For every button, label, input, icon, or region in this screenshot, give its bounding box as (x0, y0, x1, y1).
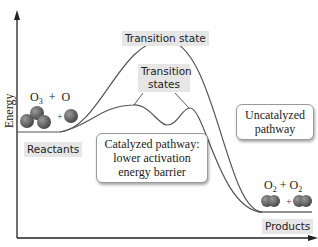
transition-state-label: Transition state (122, 31, 209, 46)
o2-molecule-icon (261, 195, 280, 207)
reactants-formula: O3 + O (30, 90, 70, 106)
plus-sign: + (286, 196, 292, 207)
products-formula: O2 + O2 (264, 178, 302, 194)
transition-states-label: Transition states (138, 64, 190, 92)
leader-line (175, 93, 189, 108)
o2-molecule-icon (293, 195, 312, 207)
leader-line (134, 93, 143, 105)
reactants-label: Reactants (24, 142, 82, 157)
ozone-molecule-icon (20, 106, 51, 129)
energy-diagram: + + Energy Transition state Transition s… (0, 0, 318, 247)
plus-sign: + (57, 111, 63, 122)
uncatalyzed-callout: Uncatalyzed pathway (236, 104, 314, 140)
catalyzed-callout: Catalyzed pathway: lower activation ener… (96, 133, 208, 183)
oxygen-atom-icon (64, 109, 78, 123)
y-axis-label: Energy (2, 94, 17, 128)
products-label: Products (262, 219, 313, 234)
x-axis (17, 235, 318, 241)
